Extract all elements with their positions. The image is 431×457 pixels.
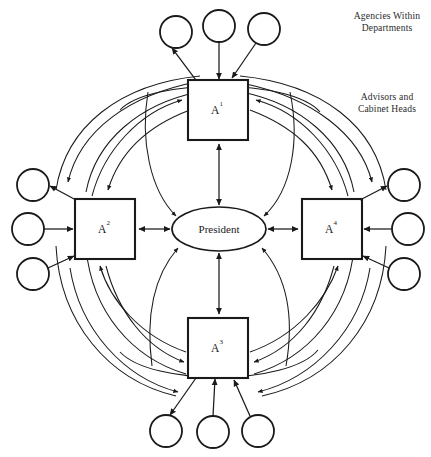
network-diagram: A1 A2 A3 A4 President [0,0,431,457]
diagram-canvas: A1 A2 A3 A4 President [0,0,431,457]
curve-a2-to-a3-inner [106,266,184,362]
edge-a4-right-top [360,186,387,200]
arc-mid-top-right [242,92,354,192]
agency-circle-bottom-right[interactable] [242,415,274,447]
curve-a4-to-a3-outer [258,268,370,392]
curve-a2-to-a1 [92,100,182,196]
agency-circle-left-middle[interactable] [12,213,44,245]
agency-circle-right-bottom[interactable] [388,258,420,290]
agency-circle-top-right[interactable] [248,13,280,45]
edge-a1-top-left [172,48,196,80]
edge-a2-left-bottom [48,256,74,268]
agency-circle-left-bottom[interactable] [17,258,49,290]
agency-circle-left-top[interactable] [17,169,49,201]
curve-upperright-to-president [264,92,294,216]
arc-mid-bottom-left [86,248,186,374]
annotation-advisors-and-cabinet-heads: Advisors and Cabinet Heads [344,91,430,116]
agency-circle-bottom-left[interactable] [150,415,182,447]
president-group: President [172,207,266,251]
annotation-agencies-within-departments: Agencies Within Departments [344,10,430,35]
agency-circle-top-left[interactable] [160,16,192,48]
curve-a3-to-a2 [100,266,186,352]
arc-outer-bottom-right [262,246,386,396]
agency-circle-right-top[interactable] [388,169,420,201]
curve-a3-to-a4 [250,266,338,352]
curve-lowerleft-to-president [150,248,178,366]
curve-a1-to-a4-inner [250,110,332,190]
edge-a1-top-right [232,43,256,78]
president-label: President [199,223,240,235]
curve-upperleft-to-president [145,92,176,216]
curve-a4-to-a3-inner [254,266,334,362]
agency-circle-bottom-center[interactable] [197,416,229,448]
edge-a3-bottom-left [170,378,196,415]
curve-a4-to-a1 [256,100,348,196]
edge-a3-bottom-right [234,380,250,416]
arc-mid-top-left [86,92,198,192]
curve-lowerright-to-president [262,248,289,366]
agency-circle-top-center[interactable] [203,10,235,42]
curve-a1-to-a2-inner [108,110,190,190]
agency-circle-right-middle[interactable] [392,213,424,245]
edge-a2-left-top [50,186,76,200]
arc-outer-bottom-left [56,246,176,396]
edge-a3-bottom-center [213,379,215,416]
curve-a1-to-a2-outer [68,82,196,182]
